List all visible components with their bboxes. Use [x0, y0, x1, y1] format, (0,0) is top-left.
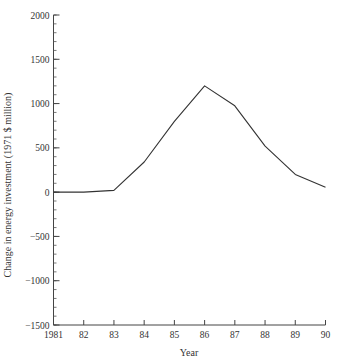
y-tick-label: 1000 [31, 99, 50, 109]
x-tick-label: 88 [260, 330, 270, 340]
y-tick-label: −500 [30, 232, 50, 242]
data-line [54, 86, 326, 192]
x-tick-label: 82 [79, 330, 89, 340]
y-tick-label: −1000 [25, 276, 50, 286]
x-tick-label: 85 [170, 330, 180, 340]
line-chart: 2000150010005000−500−1000−1500 198182838… [0, 0, 342, 362]
x-tick-label: 83 [109, 330, 119, 340]
y-tick-label: 0 [45, 188, 50, 198]
x-tick-label: 89 [291, 330, 301, 340]
y-axis: 2000150010005000−500−1000−1500 [25, 11, 59, 331]
y-tick-label: 1500 [31, 55, 50, 65]
y-tick-label: 500 [35, 143, 50, 153]
y-tick-label: −1500 [25, 321, 50, 331]
y-tick-label: 2000 [31, 11, 50, 21]
x-axis-title: Year [180, 347, 199, 358]
x-axis: 1981828384858687888990 [44, 320, 331, 340]
x-tick-label: 90 [321, 330, 331, 340]
x-tick-label: 1981 [44, 330, 63, 340]
x-tick-label: 87 [230, 330, 240, 340]
y-axis-title: Change in energy investment (1971 $ mill… [2, 93, 14, 278]
x-tick-label: 84 [139, 330, 149, 340]
x-tick-label: 86 [200, 330, 210, 340]
